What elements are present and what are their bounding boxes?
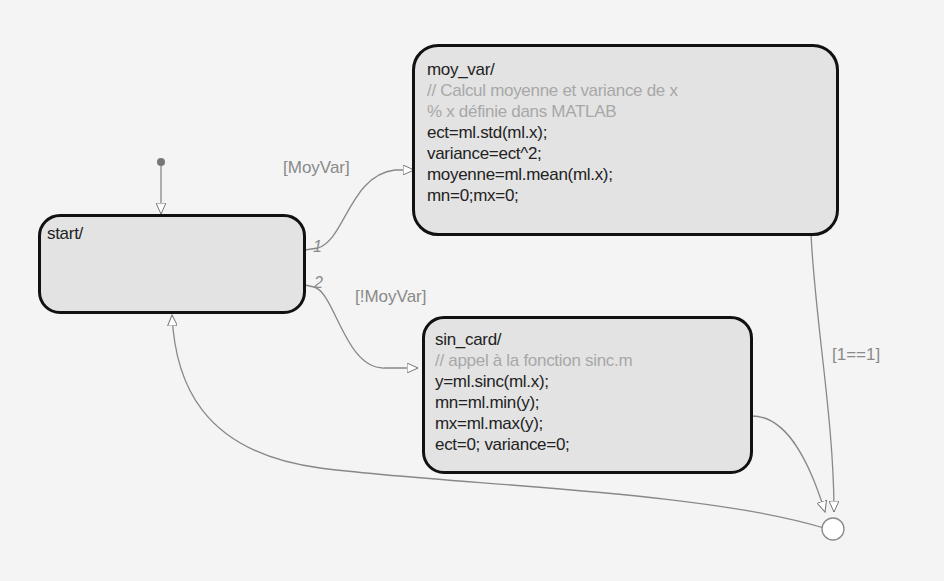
state-moy-var-action-variance: variance=ect^2; bbox=[427, 143, 836, 164]
default-transition[interactable] bbox=[157, 158, 165, 214]
state-moy-var-action-mn-mx: mn=0;mx=0; bbox=[427, 185, 836, 206]
connective-junction[interactable] bbox=[822, 518, 844, 540]
state-sin-card-title: sin_card/ bbox=[435, 329, 750, 350]
default-transition-dot bbox=[157, 158, 165, 166]
state-moy-var-action-moyenne: moyenne=ml.mean(ml.x); bbox=[427, 164, 836, 185]
state-moy-var-comment-2: % x définie dans MATLAB bbox=[427, 101, 836, 122]
state-moy-var-action-ect: ect=ml.std(ml.x); bbox=[427, 122, 836, 143]
state-sin-card[interactable]: sin_card/ // appel à la fonction sinc.m … bbox=[422, 316, 753, 474]
transition-label-always-true[interactable]: [1==1] bbox=[832, 345, 880, 365]
state-moy-var-comment-1: // Calcul moyenne et variance de x bbox=[427, 80, 836, 101]
state-sin-card-action-mx: mx=ml.max(y); bbox=[435, 413, 750, 434]
transition-label-moyvar[interactable]: [MoyVar] bbox=[283, 158, 350, 178]
transition-moy-var-to-junction[interactable] bbox=[811, 234, 834, 512]
state-sin-card-action-y: y=ml.sinc(ml.x); bbox=[435, 371, 750, 392]
state-sin-card-action-ect-variance: ect=0; variance=0; bbox=[435, 434, 750, 455]
transition-sin-card-to-junction[interactable] bbox=[752, 416, 825, 512]
state-sin-card-action-mn: mn=ml.min(y); bbox=[435, 392, 750, 413]
state-sin-card-comment: // appel à la fonction sinc.m bbox=[435, 350, 750, 371]
state-moy-var-title: moy_var/ bbox=[427, 59, 836, 80]
transition-label-not-moyvar[interactable]: [!MoyVar] bbox=[355, 287, 426, 307]
state-moy-var[interactable]: moy_var/ // Calcul moyenne et variance d… bbox=[412, 44, 839, 236]
transition-order-1: 1 bbox=[313, 238, 322, 256]
state-start-title: start/ bbox=[47, 223, 303, 244]
state-start[interactable]: start/ bbox=[38, 214, 306, 314]
stateflow-canvas: start/ moy_var/ // Calcul moyenne et var… bbox=[0, 0, 944, 581]
transition-order-2: 2 bbox=[314, 274, 323, 292]
